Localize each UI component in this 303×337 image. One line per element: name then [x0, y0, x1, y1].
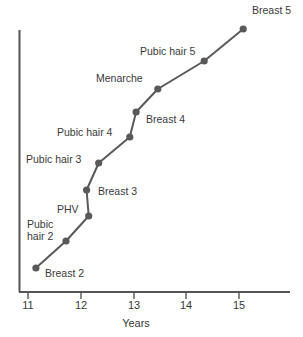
data-point-marker[interactable]: Breast 4 — [133, 108, 140, 115]
data-point-marker[interactable]: Pubic hair 2 — [62, 237, 69, 244]
point-label: hair 2 — [27, 230, 53, 242]
chart-svg: 11 12 13 14 15 Years Breast 2Pubic hair … — [0, 0, 303, 337]
puberty-milestones-chart: 11 12 13 14 15 Years Breast 2Pubic hair … — [0, 0, 303, 337]
point-label: Menarche — [96, 72, 143, 84]
data-point-marker[interactable]: Pubic hair 5 — [201, 57, 208, 64]
point-label: Pubic hair 3 — [26, 153, 82, 165]
x-tick-label-13: 13 — [128, 299, 140, 311]
x-axis-title: Years — [122, 317, 150, 329]
point-label: PHV — [57, 203, 79, 215]
data-point-marker[interactable]: Breast 3 — [83, 186, 90, 193]
data-point-marker[interactable]: Pubic hair 4 — [126, 133, 133, 140]
x-tick-label-14: 14 — [180, 299, 192, 311]
data-point-marker[interactable]: Pubic hair 3 — [95, 159, 102, 166]
point-label: Breast 5 — [252, 4, 291, 16]
point-label: Pubic hair 4 — [57, 126, 113, 138]
point-label: Pubic — [27, 218, 53, 230]
data-point-marker[interactable]: PHV — [85, 212, 92, 219]
series-layer: Breast 2Pubic hair 2PHVBreast 3Pubic hai… — [32, 25, 246, 271]
point-label: Breast 4 — [146, 113, 185, 125]
data-point-marker[interactable]: Breast 2 — [32, 264, 39, 271]
point-label: Breast 3 — [98, 185, 137, 197]
x-tick-label-12: 12 — [75, 299, 87, 311]
x-tick-label-11: 11 — [22, 299, 33, 311]
series-line — [36, 29, 243, 268]
x-tick-label-15: 15 — [233, 299, 245, 311]
point-label: Breast 2 — [45, 267, 84, 279]
data-point-marker[interactable]: Menarche — [154, 85, 161, 92]
point-label: Pubic hair 5 — [140, 45, 196, 57]
data-point-marker[interactable]: Breast 5 — [240, 25, 247, 32]
